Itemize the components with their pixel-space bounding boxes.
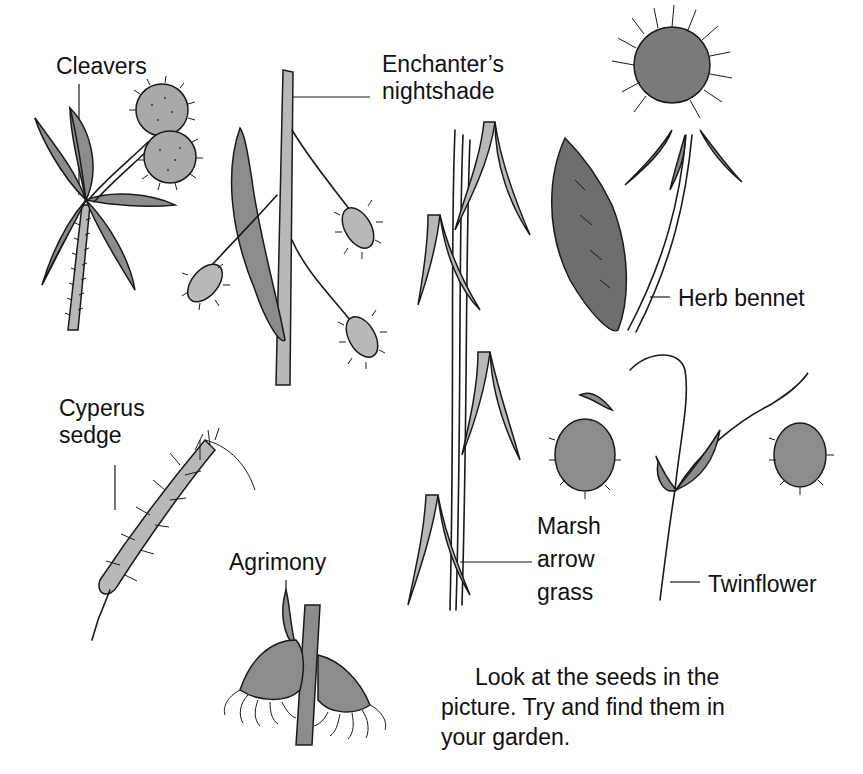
enchanters-nightshade-drawing [181, 70, 387, 385]
label-cleavers: Cleavers [56, 53, 147, 80]
label-cyperus-sedge-line1: Cyperus [59, 395, 145, 422]
label-herb-bennet: Herb bennet [678, 285, 805, 312]
label-marsh-arrow-grass-line3: grass [537, 576, 601, 609]
label-enchanters-nightshade-line1: Enchanter’s [382, 51, 504, 78]
label-cyperus-sedge: Cyperus sedge [59, 395, 145, 449]
label-cyperus-sedge-line2: sedge [59, 422, 145, 449]
label-enchanters-nightshade: Enchanter’s nightshade [382, 51, 504, 105]
caption-line-3: your garden. [441, 722, 861, 752]
caption-line-1: Look at the seeds in the [441, 662, 861, 692]
cyperus-sedge-drawing [92, 428, 255, 640]
label-enchanters-nightshade-line2: nightshade [382, 78, 504, 105]
label-marsh-arrow-grass-line2: arrow [537, 543, 601, 576]
cleavers-drawing [35, 76, 203, 330]
marsh-arrow-grass-drawing [408, 122, 532, 610]
caption-line-2: picture. Try and find them in [441, 692, 861, 722]
seed-illustration [0, 0, 863, 774]
agrimony-drawing [224, 580, 385, 745]
label-twinflower: Twinflower [708, 571, 817, 598]
label-marsh-arrow-grass-line1: Marsh [537, 510, 601, 543]
caption-text: Look at the seeds in the picture. Try an… [441, 662, 861, 752]
caption-line-1-text: Look at the seeds in the [475, 664, 719, 690]
label-agrimony: Agrimony [229, 549, 326, 576]
label-marsh-arrow-grass: Marsh arrow grass [537, 510, 601, 609]
herb-bennet-drawing [552, 5, 742, 332]
